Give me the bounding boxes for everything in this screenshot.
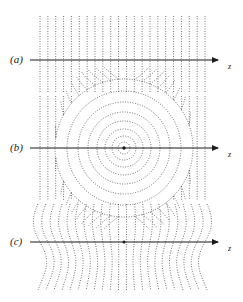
axis-label-z-b: z — [228, 150, 231, 159]
panel-label-b: (b) — [10, 141, 23, 153]
axis-label-z-a: z — [228, 62, 231, 71]
panel-label-a: (a) — [10, 53, 23, 65]
figure-canvas — [0, 0, 243, 302]
panel-label-c: (c) — [10, 235, 22, 247]
axis-label-z-c: z — [228, 244, 231, 253]
field-line-figure: (a) (b) (c) z z z — [0, 0, 243, 302]
